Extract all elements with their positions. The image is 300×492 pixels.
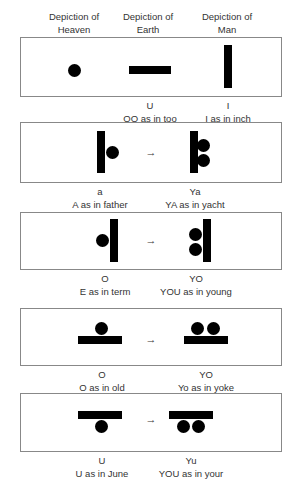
dot-symbol xyxy=(207,322,220,335)
caption-sound: YA as in yacht xyxy=(130,198,260,211)
dot-symbol xyxy=(192,420,205,433)
caption-yo: YO Yo as in yoke xyxy=(141,368,271,394)
arrow-icon: → xyxy=(143,333,159,345)
caption-yeo: YO YOU as in young xyxy=(131,272,261,298)
dot-symbol xyxy=(191,322,204,335)
earth-bar-symbol xyxy=(129,66,171,74)
caption-letter: I xyxy=(163,99,293,112)
vertical-bar-symbol xyxy=(190,131,198,173)
man-bar-symbol xyxy=(224,45,232,88)
vertical-bar-symbol xyxy=(97,131,105,173)
header-man-line2: Man xyxy=(182,23,272,36)
horizontal-bar-symbol xyxy=(184,336,228,344)
header-earth: Depiction of Earth xyxy=(103,10,193,36)
dot-symbol xyxy=(106,146,119,159)
header-earth-line2: Earth xyxy=(103,23,193,36)
caption-yu: Yu YOU as in your xyxy=(126,454,256,480)
caption-ya: Ya YA as in yacht xyxy=(130,185,260,211)
dot-symbol xyxy=(189,228,202,241)
header-earth-line1: Depiction of xyxy=(103,10,193,23)
dot-symbol xyxy=(96,234,109,247)
vertical-bar-symbol xyxy=(110,219,118,262)
dot-symbol xyxy=(197,139,210,152)
caption-letter: Yu xyxy=(126,454,256,467)
caption-sound: YOU as in young xyxy=(131,285,261,298)
dot-symbol xyxy=(177,420,190,433)
caption-letter: YO xyxy=(131,272,261,285)
header-man-line1: Depiction of xyxy=(182,10,272,23)
arrow-icon: → xyxy=(143,234,159,246)
dot-symbol xyxy=(189,243,202,256)
caption-letter: Ya xyxy=(130,185,260,198)
dot-symbol xyxy=(95,322,108,335)
caption-sound: YOU as in your xyxy=(126,467,256,480)
horizontal-bar-symbol xyxy=(78,411,122,419)
dot-symbol xyxy=(95,420,108,433)
caption-letter: YO xyxy=(141,368,271,381)
arrow-icon: → xyxy=(143,413,159,425)
horizontal-bar-symbol xyxy=(78,336,122,344)
header-man: Depiction of Man xyxy=(182,10,272,36)
vertical-bar-symbol xyxy=(203,219,211,262)
dot-symbol xyxy=(197,154,210,167)
heaven-dot-symbol xyxy=(68,64,81,77)
horizontal-bar-symbol xyxy=(169,411,213,419)
arrow-icon: → xyxy=(143,146,159,158)
